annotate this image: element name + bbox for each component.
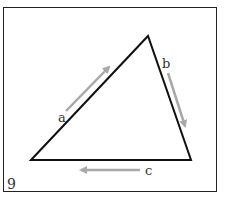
side-label-a: a	[58, 110, 66, 125]
arrow-a	[66, 67, 109, 111]
side-label-c: c	[145, 163, 152, 178]
side-label-b: b	[162, 56, 170, 71]
triangle	[31, 36, 191, 160]
triangle-diagram: a b c 9	[0, 0, 225, 200]
figure-number: 9	[7, 176, 16, 192]
